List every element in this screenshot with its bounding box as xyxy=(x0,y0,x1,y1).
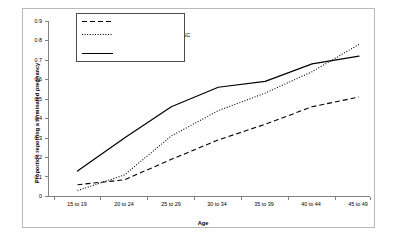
series-path-johnson-hanks xyxy=(78,56,360,171)
series-path-dhs-educated-sc-province xyxy=(78,44,360,190)
legend-box xyxy=(77,14,185,62)
figure-canvas: Proportion reporting a terminated pregna… xyxy=(0,0,398,239)
y-axis-ticks xyxy=(45,22,49,197)
plot-area xyxy=(0,0,398,239)
x-axis-ticks xyxy=(55,197,371,201)
